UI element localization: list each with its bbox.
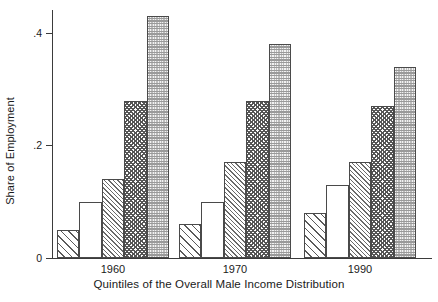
bar-1960-q5	[147, 16, 169, 258]
y-tick-mark-4	[46, 33, 52, 34]
y-tick-label-2: .2	[2, 140, 42, 150]
bar-1970-q5	[269, 44, 291, 258]
y-axis-line	[52, 10, 53, 259]
x-group-label-1960: 1960	[83, 263, 143, 275]
bar-1960-q1	[57, 230, 79, 258]
y-tick-label-0: 0	[2, 253, 42, 263]
x-group-label-1970: 1970	[205, 263, 265, 275]
bar-chart-figure: Share of Employment 0 .2 .4 1960 1970 19…	[0, 0, 438, 302]
bar-1960-q3	[102, 179, 124, 258]
bar-1990-q4	[371, 106, 393, 258]
bar-1970-q2	[201, 202, 223, 258]
bar-1990-q3	[349, 162, 371, 258]
bar-1970-q4	[246, 101, 268, 259]
bar-1990-q2	[326, 185, 348, 258]
x-axis-line	[52, 258, 432, 259]
bar-1990-q1	[304, 213, 326, 258]
bar-1990-q5	[394, 67, 416, 258]
bar-1970-q1	[179, 224, 201, 258]
x-axis-title: Quintiles of the Overall Male Income Dis…	[0, 278, 438, 290]
y-tick-mark-2	[46, 145, 52, 146]
bar-1960-q4	[124, 101, 146, 259]
bar-1970-q3	[224, 162, 246, 258]
y-tick-label-4: .4	[2, 28, 42, 38]
x-group-label-1990: 1990	[330, 263, 390, 275]
bar-1960-q2	[79, 202, 101, 258]
y-tick-mark-0	[46, 258, 52, 259]
